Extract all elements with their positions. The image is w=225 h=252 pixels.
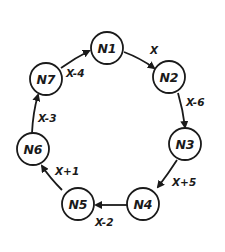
node-label-n2: N2 [159, 70, 178, 85]
edge-label-n1-n2: X [149, 44, 159, 56]
node-n5: N5 [62, 188, 94, 220]
cycle-diagram: X X-6 X+5 X-2 X+1 X-3 X-4 N1 N2 N3 N4 [0, 0, 225, 252]
node-label-n1: N1 [97, 41, 116, 56]
node-n4: N4 [127, 188, 159, 220]
node-n3: N3 [169, 128, 201, 160]
edge-n5-n6: X+1 [42, 165, 79, 190]
edge-label-n6-n7: X-3 [37, 112, 57, 124]
node-label-n4: N4 [133, 197, 152, 212]
edge-label-n3-n4: X+5 [171, 176, 196, 188]
edge-label-n2-n3: X-6 [185, 96, 205, 108]
node-label-n6: N6 [23, 142, 42, 157]
edge-label-n5-n6: X+1 [54, 165, 79, 177]
edge-label-n4-n5: X-2 [94, 216, 114, 228]
edge-n1-n2: X [124, 44, 159, 68]
node-n1: N1 [91, 32, 123, 64]
edge-n6-n7: X-3 [32, 95, 57, 133]
node-label-n5: N5 [68, 197, 87, 212]
node-n2: N2 [153, 61, 185, 93]
edge-n2-n3: X-6 [178, 93, 205, 127]
edge-n4-n5: X-2 [94, 205, 127, 228]
edge-label-n7-n1: X-4 [65, 67, 85, 79]
node-label-n3: N3 [175, 137, 194, 152]
edge-n3-n4: X+5 [158, 160, 196, 188]
node-n6: N6 [17, 133, 49, 165]
node-n7: N7 [30, 63, 62, 95]
edge-n7-n1: X-4 [61, 51, 89, 79]
node-label-n7: N7 [36, 72, 55, 87]
